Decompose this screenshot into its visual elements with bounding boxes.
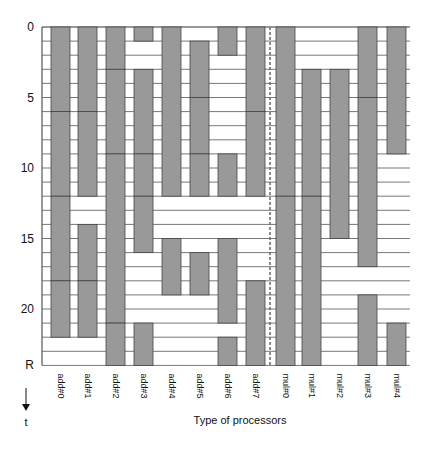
processor-column-add-4 xyxy=(162,27,181,295)
y-end-label: R xyxy=(25,358,34,372)
x-tick-label: add#7 xyxy=(251,373,261,398)
task-bar xyxy=(302,69,321,196)
task-bar xyxy=(134,154,153,196)
x-tick-label: add#3 xyxy=(139,373,149,398)
task-bar xyxy=(218,154,237,196)
task-bar xyxy=(106,69,125,154)
task-bar xyxy=(162,239,181,295)
task-bar xyxy=(134,323,153,365)
x-tick-label: mul#2 xyxy=(335,373,345,398)
y-axis-label: t xyxy=(24,416,27,428)
task-bar xyxy=(387,323,406,365)
task-bar xyxy=(51,281,70,337)
x-tick-label: mul#1 xyxy=(307,373,317,398)
x-tick-label: add#5 xyxy=(195,373,205,398)
task-bar xyxy=(358,98,377,267)
task-bar xyxy=(78,112,97,197)
x-tick-label: add#1 xyxy=(83,373,93,398)
processor-column-mul-0 xyxy=(276,27,295,365)
task-bar xyxy=(190,41,209,97)
task-bar xyxy=(134,27,153,41)
task-bar xyxy=(78,27,97,112)
y-tick-label: 20 xyxy=(21,302,35,316)
task-bar xyxy=(190,154,209,196)
task-bar xyxy=(330,69,349,238)
x-axis-title: Type of processors xyxy=(194,414,287,426)
task-bar xyxy=(51,27,70,112)
task-bar xyxy=(246,27,265,112)
processor-column-add-6 xyxy=(218,27,237,365)
processor-column-add-1 xyxy=(78,27,97,337)
x-tick-label: mul#0 xyxy=(281,373,291,398)
task-bar xyxy=(358,295,377,366)
x-tick-label: add#2 xyxy=(111,373,121,398)
task-bar xyxy=(358,27,377,98)
y-tick-label: 15 xyxy=(21,232,35,246)
task-bar xyxy=(246,281,265,366)
processor-column-add-3 xyxy=(134,27,153,365)
x-tick-label: mul#3 xyxy=(363,373,373,398)
processor-column-mul-3 xyxy=(358,27,377,365)
processor-column-add-0 xyxy=(51,27,70,337)
y-tick-label: 0 xyxy=(27,20,34,34)
task-bar xyxy=(106,27,125,69)
chart-canvas: 05101520Radd#0add#1add#2add#3add#4add#5a… xyxy=(0,0,430,451)
task-bar xyxy=(106,323,125,365)
task-bar xyxy=(51,112,70,197)
arrow-head-icon xyxy=(22,404,30,411)
x-tick-label: add#4 xyxy=(167,373,177,398)
y-tick-label: 10 xyxy=(21,161,35,175)
gantt-chart: 05101520Radd#0add#1add#2add#3add#4add#5a… xyxy=(0,0,430,451)
processor-column-mul-1 xyxy=(302,69,321,365)
x-tick-label: add#0 xyxy=(56,373,66,398)
task-bar xyxy=(162,27,181,196)
x-tick-label: add#6 xyxy=(223,373,233,398)
processor-column-mul-2 xyxy=(330,69,349,238)
task-bar xyxy=(190,98,209,154)
processor-column-add-5 xyxy=(190,41,209,295)
task-bar xyxy=(190,253,209,295)
task-bar xyxy=(78,281,97,337)
task-bar xyxy=(387,27,406,154)
task-bar xyxy=(246,112,265,197)
task-bar xyxy=(106,154,125,323)
task-bar xyxy=(218,239,237,324)
y-tick-label: 5 xyxy=(27,91,34,105)
task-bar xyxy=(51,196,70,281)
task-bar xyxy=(302,196,321,365)
task-bar xyxy=(218,337,237,365)
x-tick-label: mul#4 xyxy=(392,373,402,398)
task-bar xyxy=(134,69,153,154)
task-bar xyxy=(134,196,153,252)
task-bar xyxy=(218,27,237,55)
task-bar xyxy=(78,224,97,280)
task-bar xyxy=(276,196,295,365)
processor-column-add-7 xyxy=(246,27,265,365)
processor-column-add-2 xyxy=(106,27,125,365)
task-bar xyxy=(276,27,295,196)
